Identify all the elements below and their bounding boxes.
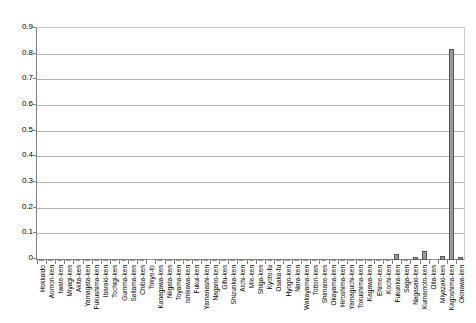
x-label-slot: Ibaraki-ken [101, 265, 110, 321]
x-tick-slot [383, 260, 392, 264]
bar-slot [438, 27, 447, 260]
bar-slot [146, 27, 155, 260]
x-label-slot: Wakayama-ken [301, 265, 310, 321]
x-tick-slot [46, 260, 55, 264]
bar-slot [119, 27, 128, 260]
x-label-slot: Miyagi-ken [64, 265, 73, 321]
x-tick-slot [420, 260, 429, 264]
bar-slot [55, 27, 64, 260]
x-tick-label: Nara-ken [293, 265, 300, 292]
bar-slot [256, 27, 265, 260]
x-tick-mark [374, 260, 375, 264]
bar [449, 49, 454, 260]
x-tick-label: Ehime-ken [375, 265, 382, 296]
x-tick-slot [347, 260, 356, 264]
x-tick-label: Ishikawa-ken [184, 265, 191, 303]
bar-slot [310, 27, 319, 260]
x-tick-slot [83, 260, 92, 264]
x-tick-mark [365, 260, 366, 264]
x-tick-label: Yamagata-ken [84, 265, 91, 307]
x-tick-label: Shimane-ken [320, 265, 327, 303]
y-tick-label: 0.5 [3, 126, 33, 134]
bar-slot [456, 27, 465, 260]
x-tick-slot [447, 260, 456, 264]
x-axis-ticks [37, 260, 465, 264]
x-tick-slot [73, 260, 82, 264]
x-tick-label: Osaka-fu [275, 265, 282, 291]
x-label-slot: Shiga-ken [256, 265, 265, 321]
x-tick-label: Hiroshima-ken [339, 265, 346, 307]
x-tick-label: Nagano-ken [211, 265, 218, 300]
x-tick-mark [319, 260, 320, 264]
x-label-slot: Miyazaki-ken [438, 265, 447, 321]
x-label-slot: Aomori-ken [46, 265, 55, 321]
bar-slot [237, 27, 246, 260]
x-label-slot: Kagoshima-ken [447, 265, 456, 321]
bar-slot [64, 27, 73, 260]
x-tick-label: Miyazaki-ken [439, 265, 446, 303]
x-tick-mark [128, 260, 129, 264]
y-tick-label: 0.6 [3, 100, 33, 108]
x-tick-label: Niigata-ken [166, 265, 173, 298]
x-tick-mark [347, 260, 348, 264]
x-tick-label: Okinawa-ken [457, 265, 464, 303]
bar-slot [73, 27, 82, 260]
bar-slot [392, 27, 401, 260]
bar-slot [137, 27, 146, 260]
x-tick-label: Hokkaido [38, 265, 45, 292]
bar-slot [365, 27, 374, 260]
x-tick-mark [301, 260, 302, 264]
x-tick-slot [329, 260, 338, 264]
x-tick-slot [183, 260, 192, 264]
x-tick-mark [429, 260, 430, 264]
x-tick-mark [183, 260, 184, 264]
bar-slot [101, 27, 110, 260]
x-label-slot: Osaka-fu [274, 265, 283, 321]
x-tick-mark [174, 260, 175, 264]
x-tick-slot [265, 260, 274, 264]
x-tick-label: Tokyo-to [147, 265, 154, 290]
x-tick-slot [319, 260, 328, 264]
x-tick-mark [447, 260, 448, 264]
x-label-slot: Okayama-ken [329, 265, 338, 321]
x-tick-label: Tokushima-ken [357, 265, 364, 309]
y-tick-label: 0.7 [3, 74, 33, 82]
x-tick-label: Aomori-ken [47, 265, 54, 298]
y-tick-label: 0.8 [3, 49, 33, 57]
y-tick-label: 0.1 [3, 228, 33, 236]
x-tick-mark [256, 260, 257, 264]
x-label-slot: Fukui-ken [192, 265, 201, 321]
x-tick-slot [438, 260, 447, 264]
x-tick-mark [392, 260, 393, 264]
bar-slot [192, 27, 201, 260]
bar-slot [219, 27, 228, 260]
x-tick-slot [283, 260, 292, 264]
bar-slot [165, 27, 174, 260]
x-tick-slot [37, 260, 46, 264]
bar-slot [274, 27, 283, 260]
x-tick-mark [247, 260, 248, 264]
x-tick-slot [256, 260, 265, 264]
x-tick-slot [92, 260, 101, 264]
bar-slot [174, 27, 183, 260]
x-tick-slot [201, 260, 210, 264]
x-label-slot: Saitama-ken [128, 265, 137, 321]
bar-slot [420, 27, 429, 260]
x-tick-slot [146, 260, 155, 264]
bar-slot [401, 27, 410, 260]
x-tick-label: Kyoto-fu [266, 265, 273, 289]
x-tick-mark [310, 260, 311, 264]
x-label-slot: Shizuoka-ken [228, 265, 237, 321]
x-tick-mark [410, 260, 411, 264]
x-tick-slot [55, 260, 64, 264]
bar-slot [183, 27, 192, 260]
x-tick-mark [237, 260, 238, 264]
x-tick-slot [192, 260, 201, 264]
x-label-slot: Yamagata-ken [83, 265, 92, 321]
x-tick-slot [292, 260, 301, 264]
bar-chart: 00.10.20.30.40.50.60.70.80.9 HokkaidoAom… [0, 0, 476, 323]
x-label-slot: Niigata-ken [165, 265, 174, 321]
bar-slot [283, 27, 292, 260]
x-tick-label: Iwate-ken [56, 265, 63, 293]
x-tick-mark [64, 260, 65, 264]
